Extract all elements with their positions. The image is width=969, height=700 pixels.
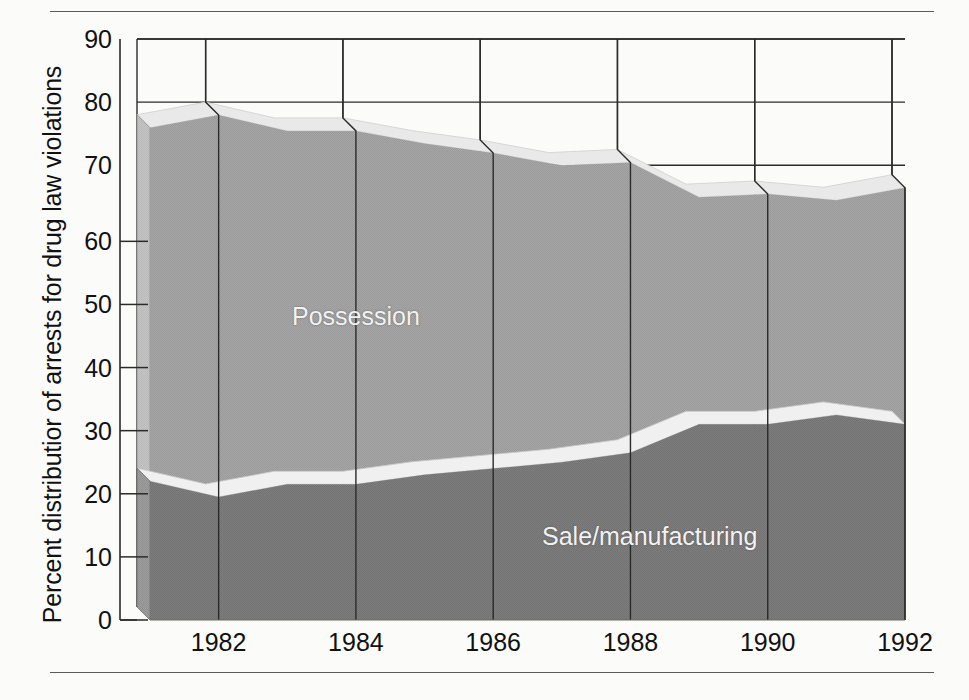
y-tick-label: 10 <box>66 542 112 571</box>
plot-area <box>0 0 969 700</box>
x-tick-label: 1984 <box>301 628 411 657</box>
x-tick-label: 1986 <box>438 628 548 657</box>
stacked-area-chart: Percent distributior of arrests for drug… <box>0 0 969 700</box>
area-bands <box>137 102 905 620</box>
y-tick-label: 30 <box>66 416 112 445</box>
y-tick-label: 60 <box>66 227 112 256</box>
x-tick-label: 1982 <box>164 628 274 657</box>
y-axis-tick-labels: 0102030405060708090 <box>60 0 112 700</box>
y-tick-label: 70 <box>66 151 112 180</box>
x-tick-label: 1988 <box>575 628 685 657</box>
y-tick-label: 0 <box>66 606 112 635</box>
x-tick-label: 1990 <box>713 628 823 657</box>
x-tick-label: 1992 <box>850 628 960 657</box>
y-tick-label: 20 <box>66 479 112 508</box>
possession-side-face <box>137 115 150 481</box>
sale-manufacturing-side-face <box>137 468 150 620</box>
series-label-possession: Possession <box>292 302 420 331</box>
y-tick-label: 90 <box>66 25 112 54</box>
y-tick-label: 80 <box>66 88 112 117</box>
y-tick-label: 50 <box>66 290 112 319</box>
series-label-sale: Sale/manufacturing <box>542 522 757 551</box>
y-tick-label: 40 <box>66 353 112 382</box>
